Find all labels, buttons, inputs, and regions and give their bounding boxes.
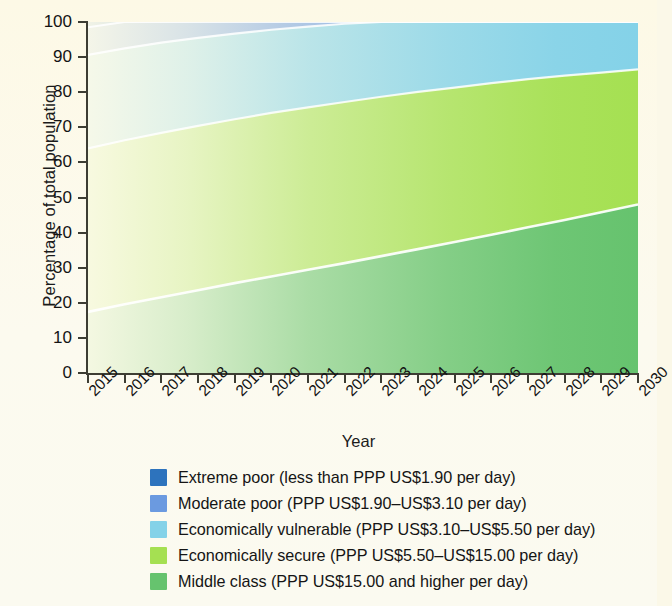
legend-item-3: Economically secure (PPP US$5.50–US$15.0… <box>150 542 650 568</box>
y-tick-70 <box>78 126 86 128</box>
y-tick-label-20: 20 <box>12 294 72 311</box>
legend-label-1: Moderate poor (PPP US$1.90–US$3.10 per d… <box>178 494 527 513</box>
y-tick-label-60: 60 <box>12 153 72 170</box>
y-tick-label-50: 50 <box>12 189 72 206</box>
legend-swatch-middle-class <box>150 573 167 590</box>
stacked-area-plot <box>88 22 638 373</box>
y-tick-90 <box>78 56 86 58</box>
legend-swatch-moderate-poor <box>150 495 167 512</box>
y-tick-label-10: 10 <box>12 329 72 346</box>
y-tick-50 <box>78 197 86 199</box>
y-tick-10 <box>78 337 86 339</box>
legend-label-2: Economically vulnerable (PPP US$3.10–US$… <box>178 520 595 539</box>
x-tick-label-2030: 2030 <box>635 363 672 400</box>
legend-swatch-economically-vulnerable <box>150 521 167 538</box>
y-tick-60 <box>78 161 86 163</box>
legend-swatch-extreme-poor <box>150 469 167 486</box>
legend-label-3: Economically secure (PPP US$5.50–US$15.0… <box>178 546 578 565</box>
y-tick-label-40: 40 <box>12 224 72 241</box>
y-tick-label-0: 0 <box>12 364 72 381</box>
y-tick-label-90: 90 <box>12 48 72 65</box>
y-tick-40 <box>78 232 86 234</box>
legend-label-0: Extreme poor (less than PPP US$1.90 per … <box>178 468 516 487</box>
plot-area <box>88 22 638 373</box>
y-tick-0 <box>78 372 86 374</box>
y-tick-100 <box>78 21 86 23</box>
y-tick-30 <box>78 267 86 269</box>
y-tick-label-70: 70 <box>12 118 72 135</box>
x-axis-title: Year <box>0 432 657 451</box>
legend-label-4: Middle class (PPP US$15.00 and higher pe… <box>178 572 528 591</box>
legend-item-0: Extreme poor (less than PPP US$1.90 per … <box>150 464 650 490</box>
y-tick-label-80: 80 <box>12 83 72 100</box>
y-tick-label-30: 30 <box>12 259 72 276</box>
legend-item-4: Middle class (PPP US$15.00 and higher pe… <box>150 568 650 594</box>
legend-item-1: Moderate poor (PPP US$1.90–US$3.10 per d… <box>150 490 650 516</box>
y-tick-label-100: 100 <box>12 13 72 30</box>
y-tick-20 <box>78 302 86 304</box>
y-axis-line <box>86 21 88 374</box>
legend-item-2: Economically vulnerable (PPP US$3.10–US$… <box>150 516 650 542</box>
legend-swatch-economically-secure <box>150 547 167 564</box>
chart-legend: Extreme poor (less than PPP US$1.90 per … <box>150 464 650 594</box>
y-tick-80 <box>78 91 86 93</box>
